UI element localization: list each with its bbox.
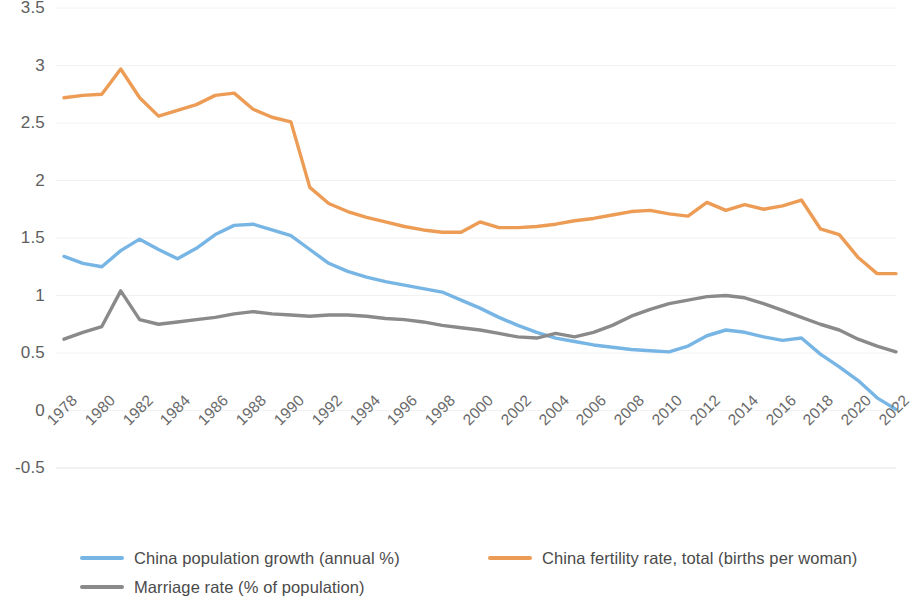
y-tick-label: 2: [35, 172, 45, 189]
legend-item-fertility-rate[interactable]: China fertility rate, total (births per …: [488, 549, 857, 567]
y-tick-label: 3.5: [21, 0, 45, 16]
legend-item-marriage-rate[interactable]: Marriage rate (% of population): [80, 578, 365, 596]
chart-legend: China population growth (annual %) China…: [56, 545, 903, 607]
gridlines: [56, 8, 896, 468]
plot-area: [56, 8, 896, 468]
y-tick-label: -0.5: [15, 459, 45, 476]
plot-svg: [56, 8, 896, 468]
series-lines: [64, 69, 896, 409]
y-tick-label: 1.5: [21, 229, 45, 246]
legend-swatch-fertility-rate: [488, 556, 532, 561]
series-line-china-fertility-rate-total-births-per-woman: [64, 69, 896, 274]
legend-label-fertility-rate: China fertility rate, total (births per …: [542, 549, 857, 567]
legend-label-marriage-rate: Marriage rate (% of population): [134, 578, 365, 596]
y-axis: 3.532.521.510.50-0.5: [0, 0, 52, 530]
y-tick-label: 2.5: [21, 114, 45, 131]
legend-item-population-growth[interactable]: China population growth (annual %): [80, 549, 400, 567]
legend-label-population-growth: China population growth (annual %): [134, 549, 400, 567]
y-tick-label: 1: [35, 287, 45, 304]
legend-swatch-marriage-rate: [80, 585, 124, 590]
series-line-marriage-rate-of-population: [64, 291, 896, 352]
y-tick-label: 3: [35, 57, 45, 74]
legend-swatch-population-growth: [80, 556, 124, 561]
y-tick-label: 0: [35, 402, 45, 419]
series-line-china-population-growth-annual: [64, 224, 896, 409]
y-tick-label: 0.5: [21, 344, 45, 361]
